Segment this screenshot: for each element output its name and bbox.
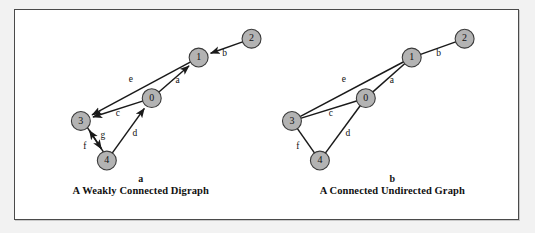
node-label-1: 1 <box>409 51 414 62</box>
node-2: 2 <box>242 29 261 48</box>
node-3: 3 <box>282 112 301 131</box>
node-1: 1 <box>402 48 421 67</box>
edge-b <box>211 41 244 53</box>
node-label-3: 3 <box>78 115 83 126</box>
node-layer: 01234 <box>71 29 261 170</box>
node-label-0: 0 <box>363 92 368 103</box>
edge-e <box>92 61 192 115</box>
edge-label-d: d <box>132 128 137 138</box>
edge-e <box>298 61 404 117</box>
edge-label-f: f <box>296 141 300 151</box>
edge-label-g: g <box>100 130 105 140</box>
panel-weakly-connected-digraph: abcdefg01234 a A Weakly Connected Digrap… <box>15 10 267 219</box>
panel-b-caption-letter: b <box>267 173 519 184</box>
panel-connected-undirected-graph: abcdef01234 b A Connected Undirected Gra… <box>267 10 519 219</box>
edge-label-b: b <box>222 48 227 58</box>
node-label-2: 2 <box>462 32 467 43</box>
node-label-2: 2 <box>249 32 254 43</box>
edge-label-c: c <box>328 108 332 118</box>
node-1: 1 <box>189 48 208 67</box>
node-4: 4 <box>97 151 116 170</box>
node-0: 0 <box>356 89 375 108</box>
figure-root: abcdefg01234 a A Weakly Connected Digrap… <box>0 0 535 233</box>
edge-label-e: e <box>129 75 133 85</box>
node-label-1: 1 <box>196 51 201 62</box>
panel-a-caption-letter: a <box>15 173 267 184</box>
edge-label-d: d <box>345 128 350 138</box>
figure-frame: abcdefg01234 a A Weakly Connected Digrap… <box>14 9 519 220</box>
edge-a <box>158 66 189 93</box>
edge-label-a: a <box>176 76 181 86</box>
panel-b-caption-title: A Connected Undirected Graph <box>267 185 519 197</box>
node-2: 2 <box>455 29 474 48</box>
panel-a-caption-title: A Weakly Connected Digraph <box>15 185 267 197</box>
node-label-0: 0 <box>149 92 154 103</box>
edge-label-f: f <box>83 141 87 151</box>
edge-label-b: b <box>436 48 441 58</box>
node-label-4: 4 <box>317 154 322 165</box>
edge-layer <box>296 41 457 154</box>
node-label-4: 4 <box>104 154 109 165</box>
edge-label-a: a <box>389 76 394 86</box>
edge-label-c: c <box>116 108 120 118</box>
node-label-3: 3 <box>289 115 294 126</box>
edge-layer <box>87 41 244 154</box>
edge-label-e: e <box>341 75 345 85</box>
node-4: 4 <box>310 151 329 170</box>
node-3: 3 <box>71 112 90 131</box>
node-0: 0 <box>142 89 161 108</box>
